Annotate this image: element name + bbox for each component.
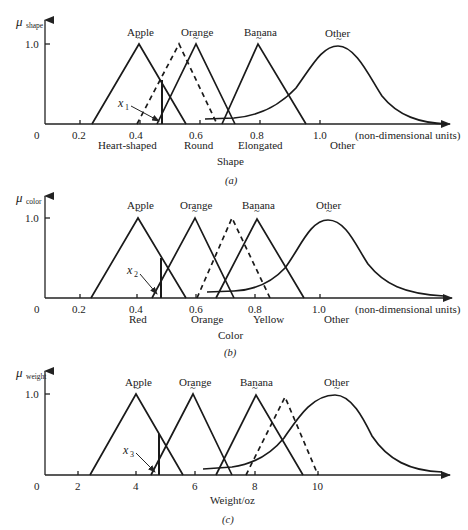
tilde-mark: ~ (192, 205, 198, 216)
x-tick-label: 0.2 (72, 303, 86, 315)
tilde-mark: ~ (134, 382, 140, 393)
y-tick-label: 1.0 (25, 212, 39, 224)
input-label-x3: x (122, 443, 129, 457)
input-label-sub: 2 (134, 270, 138, 279)
category-label: Heart-shaped (98, 139, 157, 151)
category-label: Other (330, 139, 355, 151)
x-tick-label: 4 (133, 480, 139, 492)
x-ticks: 0.2 0.4 0.6 0.8 1.0 (72, 120, 327, 141)
apple-membership-curve (91, 218, 186, 298)
banana-membership-curve (216, 395, 303, 475)
input-label-x2: x (126, 263, 133, 277)
fuzzy-membership-figure: μ shape 1.0 0 0.2 0.4 0.6 0.8 1.0 (non-d… (0, 0, 468, 530)
input-label-x1: x (117, 96, 124, 110)
tilde-mark: ~ (254, 205, 260, 216)
tilde-mark: ~ (193, 32, 199, 43)
y-axis-label: μ (15, 190, 23, 205)
x-tick-label: 8 (252, 480, 258, 492)
x-tick-label: 0.2 (72, 129, 86, 141)
category-label: Elongated (238, 139, 283, 151)
panel-caption: (c) (222, 514, 234, 526)
category-label: Other (324, 313, 349, 325)
y-axis-label-sub: weight (26, 372, 47, 381)
tilde-mark: ~ (252, 382, 258, 393)
panel-b-color: μ color 1.0 0 0.2 0.4 0.6 0.8 1.0 (non-d… (15, 190, 461, 359)
other-membership-curve (207, 220, 444, 296)
pointer-arrow-icon (131, 106, 159, 121)
x-tick-label: 6 (192, 480, 198, 492)
x-tick-label: 1.0 (313, 129, 327, 141)
tilde-mark: ~ (336, 33, 342, 44)
panel-caption: (b) (224, 347, 237, 359)
y-axis-label-sub: shape (26, 21, 44, 30)
category-label: Yellow (253, 313, 284, 325)
orange-membership-curve (157, 44, 235, 124)
pointer-arrow-icon (140, 274, 157, 294)
tilde-mark: ~ (190, 382, 196, 393)
x-ticks: 2 4 6 8 10 (75, 471, 324, 492)
input-label-sub: 3 (130, 450, 134, 459)
y-axis-label: μ (15, 365, 23, 380)
category-label: Red (129, 313, 147, 325)
axis-title: Shape (217, 155, 244, 167)
origin-label: 0 (34, 303, 40, 315)
tilde-mark: ~ (137, 32, 143, 43)
units-label: (non-dimensional units) (355, 129, 461, 142)
x-tick-label: 2 (75, 480, 81, 492)
apple-membership-curve (90, 394, 183, 475)
input-label-sub: 1 (125, 103, 129, 112)
pointer-arrow-icon (136, 453, 155, 472)
panel-caption: (a) (225, 175, 238, 187)
panel-a-shape: μ shape 1.0 0 0.2 0.4 0.6 0.8 1.0 (non-d… (15, 14, 461, 187)
units-label: (non-dimensional units) (355, 303, 461, 316)
origin-label: 0 (34, 480, 40, 492)
y-tick-label: 1.0 (25, 388, 39, 400)
x-tick-label: 10 (312, 480, 324, 492)
category-label: Round (184, 139, 214, 151)
tilde-mark: ~ (326, 205, 332, 216)
y-tick-label: 1.0 (25, 38, 39, 50)
tilde-mark: ~ (256, 32, 262, 43)
other-membership-curve (203, 395, 442, 472)
panel-c-weight: μ weight 1.0 0 2 4 6 8 10 Weight/oz (c) … (15, 365, 450, 526)
axis-title: Color (218, 329, 243, 341)
orange-membership-curve (151, 394, 232, 475)
y-axis-label-sub: color (26, 197, 42, 206)
banana-membership-curve (222, 44, 306, 124)
x-ticks: 0.2 0.4 0.6 0.8 1.0 (72, 294, 326, 315)
other-membership-curve (205, 46, 447, 124)
axis-title: Weight/oz (210, 494, 255, 506)
origin-label: 0 (34, 129, 40, 141)
y-axis-label: μ (15, 14, 23, 29)
tilde-mark: ~ (334, 382, 340, 393)
category-label: Orange (191, 313, 223, 325)
tilde-mark: ~ (136, 205, 142, 216)
